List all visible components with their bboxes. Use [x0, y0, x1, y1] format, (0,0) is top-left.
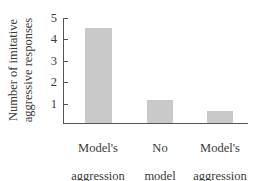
y-tick-label-3: 3	[47, 55, 57, 67]
y-axis-label-line-1: Number of imitative	[6, 10, 21, 130]
bar-model-aggression-reinforced	[85, 28, 112, 123]
category-label-line: aggression	[180, 169, 260, 181]
bar-no-model	[147, 100, 173, 123]
bar-model-aggression-punished	[207, 111, 233, 123]
y-tick-label-1: 1	[47, 98, 57, 110]
y-tick-5	[63, 18, 68, 19]
y-axis	[63, 18, 64, 123]
x-axis	[63, 123, 248, 124]
y-tick-2	[63, 82, 68, 83]
y-tick-label-2: 2	[47, 76, 57, 88]
category-label-line: Model's	[180, 141, 260, 155]
y-tick-3	[63, 61, 68, 62]
y-tick-4	[63, 39, 68, 40]
y-tick-label-5: 5	[47, 12, 57, 24]
y-axis-label: Number of imitative aggressive responses	[6, 10, 42, 130]
y-tick-1	[63, 104, 68, 105]
y-axis-label-line-2: aggressive responses	[21, 10, 36, 130]
category-label-punished: Model's aggression punished	[180, 127, 260, 181]
y-tick-label-4: 4	[47, 33, 57, 45]
